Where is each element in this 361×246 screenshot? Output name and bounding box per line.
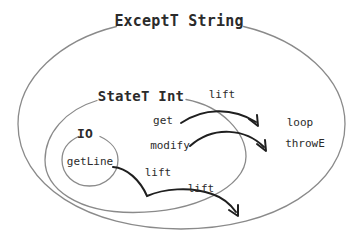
monad-label-statet: StateT Int (98, 89, 184, 103)
operation-label-get: get (153, 115, 173, 126)
arrow-lift-getline (113, 167, 236, 212)
monad-label-exceptt: ExceptT String (114, 14, 243, 29)
operation-label-throwe: throwE (285, 138, 325, 149)
monad-label-io: IO (77, 127, 93, 140)
monad-transformer-diagram: ExceptT String StateT Int IO getLine get… (0, 0, 361, 246)
operation-label-getline: getLine (67, 156, 113, 167)
operation-label-loop: loop (287, 117, 314, 128)
arrow-label-lift-statet: lift (188, 183, 215, 194)
arrow-label-lift-get: lift (209, 89, 236, 100)
arrow-lift-modify (190, 132, 264, 147)
operation-label-modify: modify (150, 140, 190, 151)
arrow-label-lift-io: lift (145, 167, 172, 178)
